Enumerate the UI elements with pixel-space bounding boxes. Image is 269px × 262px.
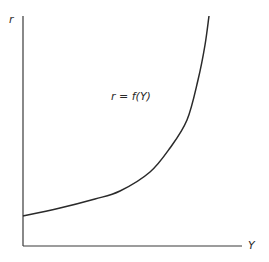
- x-axis-label: Y: [248, 240, 255, 251]
- curve-label: r = f(Y): [111, 91, 151, 102]
- chart-area: r Y r = f(Y): [0, 0, 269, 262]
- chart-svg: [0, 0, 269, 262]
- y-axis-label: r: [9, 14, 14, 25]
- curve-r-f-Y: [23, 16, 209, 216]
